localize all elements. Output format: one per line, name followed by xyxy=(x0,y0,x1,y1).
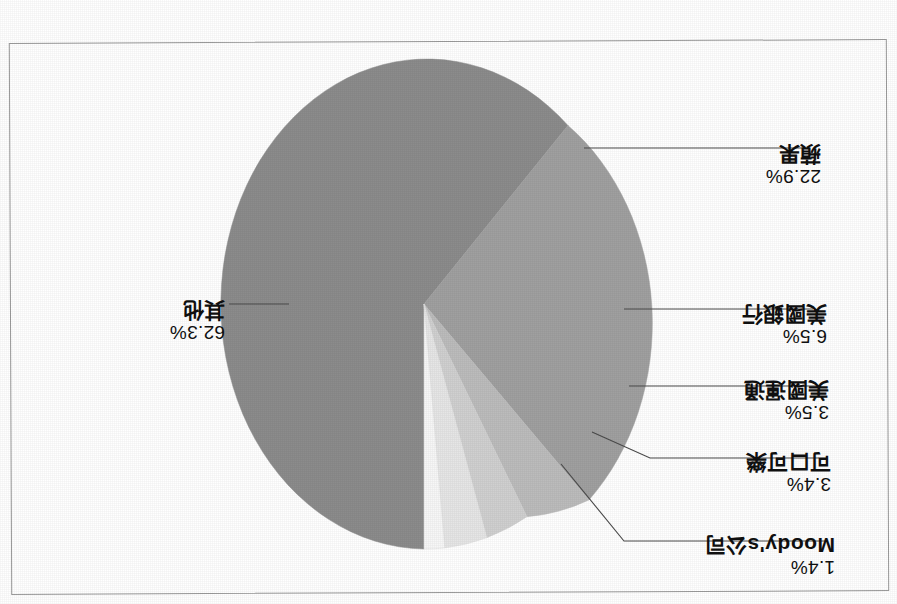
scanned-page-rotated: 62.3% 其他 22.9% 蘋果 6.5% 美國銀行 3.5% 美國運通 3.… xyxy=(0,0,897,604)
slice-percent-other: 62.3% xyxy=(170,321,225,342)
slice-name-apple: 蘋果 xyxy=(766,143,821,166)
slice-label-amex: 3.5% 美國運通 xyxy=(743,379,829,422)
slice-percent-moodys: 1.4% xyxy=(704,556,835,577)
slice-name-other: 其他 xyxy=(170,299,225,322)
slice-percent-amex: 3.5% xyxy=(743,401,829,422)
slice-label-apple: 22.9% 蘋果 xyxy=(766,143,821,186)
slice-label-other: 62.3% 其他 xyxy=(170,299,225,342)
pie-chart-plot-area: 62.3% 其他 22.9% 蘋果 6.5% 美國銀行 3.5% 美國運通 3.… xyxy=(0,0,897,604)
slice-name-coke: 可口可樂 xyxy=(745,451,831,474)
slice-name-moodys: Moody's公司 xyxy=(704,534,835,557)
slice-percent-bofa: 6.5% xyxy=(741,325,827,346)
slice-label-bofa: 6.5% 美國銀行 xyxy=(741,303,827,346)
slice-label-moodys: 1.4% Moody's公司 xyxy=(704,534,835,577)
slice-percent-coke: 3.4% xyxy=(745,473,831,494)
slice-name-amex: 美國運通 xyxy=(743,379,829,402)
slice-label-coke: 3.4% 可口可樂 xyxy=(745,451,831,494)
slice-name-bofa: 美國銀行 xyxy=(741,303,827,326)
slice-percent-apple: 22.9% xyxy=(766,165,821,186)
